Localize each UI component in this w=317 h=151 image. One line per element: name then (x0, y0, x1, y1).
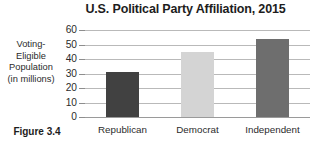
plot-area (85, 30, 310, 117)
y-axis-tick-mark (79, 30, 85, 31)
bar-republican (106, 72, 139, 117)
bar-democrat (181, 52, 214, 117)
y-axis-tick-label: 40 (47, 54, 77, 64)
y-axis-tick-label: 0 (47, 112, 77, 122)
x-axis-tick-label: Republican (85, 124, 160, 136)
y-axis-tick-mark (79, 59, 85, 60)
chart-title: U.S. Political Party Affiliation, 2015 (58, 2, 313, 17)
x-axis-tick-label: Democrat (160, 124, 235, 136)
y-axis-tick-labels: 6050403020100 (48, 0, 77, 151)
y-axis-tick-label: 20 (47, 83, 77, 93)
y-axis-tick-label: 30 (47, 69, 77, 79)
y-axis-tick-mark (79, 74, 85, 75)
y-axis-tick-mark (79, 88, 85, 89)
x-axis-tick-labels: RepublicanDemocratIndependent (85, 124, 310, 138)
bar-independent (256, 39, 289, 117)
y-axis-tick-mark (79, 103, 85, 104)
y-axis-tick-label: 10 (47, 98, 77, 108)
gridline (85, 117, 310, 118)
gridline (85, 30, 310, 31)
y-axis-tick-mark (79, 117, 85, 118)
y-axis-tick-label: 50 (47, 40, 77, 50)
y-axis-tick-mark (79, 45, 85, 46)
figure-3-4: U.S. Political Party Affiliation, 2015 V… (0, 0, 317, 151)
x-axis-tick-label: Independent (235, 124, 310, 136)
y-axis-tick-label: 60 (47, 25, 77, 35)
